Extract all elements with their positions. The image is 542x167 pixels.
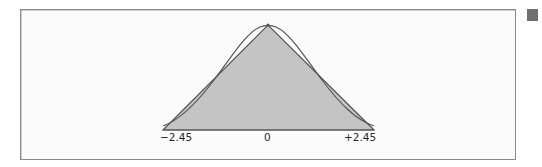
tick-label-center: 0 — [264, 131, 271, 143]
tick-label-right: +2.45 — [344, 131, 376, 143]
distribution-plot — [0, 0, 542, 167]
tick-label-left: −2.45 — [160, 131, 192, 143]
triangle-area — [163, 25, 374, 130]
corner-marker — [527, 9, 538, 21]
apex-point — [267, 24, 270, 27]
